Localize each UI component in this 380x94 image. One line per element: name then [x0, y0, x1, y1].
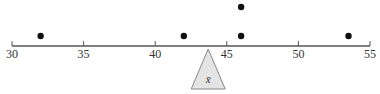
mean-label: x̄ — [205, 73, 211, 85]
tick-label: 55 — [364, 47, 376, 61]
data-point — [238, 4, 244, 10]
tick-label: 35 — [78, 47, 90, 61]
tick-label: 30 — [6, 47, 18, 61]
tick-label: 45 — [221, 47, 233, 61]
data-point — [181, 33, 187, 39]
data-point — [345, 33, 351, 39]
dot-plot: 303540455055x̄ — [0, 0, 380, 94]
data-point — [238, 33, 244, 39]
tick-label: 50 — [292, 47, 304, 61]
tick-label: 40 — [149, 47, 161, 61]
data-point — [37, 33, 43, 39]
